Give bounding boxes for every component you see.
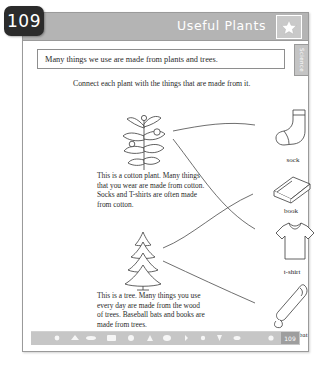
subject-tab-label: Science (299, 48, 305, 72)
subject-tab: Science (294, 44, 309, 76)
pine-tree-icon (118, 229, 168, 291)
page-number-badge: 109 (4, 6, 44, 36)
page-number-text: 109 (7, 11, 41, 31)
footer-page-number-text: 109 (284, 335, 295, 342)
book-icon (271, 175, 313, 203)
footer-page-number: 109 (281, 332, 299, 344)
intro-statement-box: Many things we use are made from plants … (37, 49, 285, 69)
connector-cotton-sock (173, 123, 255, 131)
page-header-band: Useful Plants (23, 13, 308, 41)
worksheet-screenshot: Useful Plants Science Many things we use… (0, 0, 327, 367)
product-label-tshirt: t-shirt (269, 268, 315, 276)
footer-decoration-strip (31, 331, 300, 345)
tshirt-icon (275, 220, 315, 262)
tree-description: This is a tree. Many things you use ever… (97, 291, 205, 330)
product-label-sock: sock (275, 156, 311, 164)
cotton-description: This is a cotton plant. Many things that… (97, 171, 205, 210)
intro-statement-text: Many things we use are made from plants … (45, 55, 218, 64)
star-icon (276, 15, 302, 39)
instruction-text: Connect each plant with the things that … (73, 79, 263, 89)
page-title: Useful Plants (177, 18, 266, 33)
baseball-bat-icon (273, 283, 313, 329)
product-label-book: book (271, 207, 311, 215)
sock-icon (275, 107, 309, 151)
worksheet-page: Useful Plants Science Many things we use… (22, 12, 309, 352)
cotton-plant-icon (113, 106, 175, 172)
